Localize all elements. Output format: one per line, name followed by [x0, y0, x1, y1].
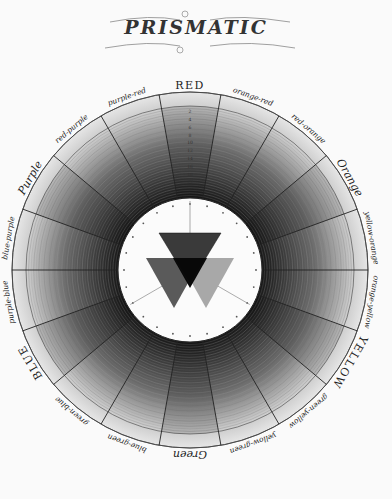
center-dial [118, 198, 262, 342]
scale-number: 10 [187, 140, 193, 145]
scale-number: 20 [187, 179, 193, 184]
scale-number: 8 [189, 133, 192, 138]
scale-number: 2 [189, 109, 192, 114]
scale-number: 14 [187, 156, 193, 161]
segment-label-green: Green [173, 448, 207, 461]
scale-number: 4 [189, 117, 192, 122]
scale-number: 6 [189, 125, 192, 130]
color-wheel: REDorange-redred-orangeOrangeyellow-oran… [0, 0, 392, 499]
segment-label-red: RED [175, 79, 205, 92]
scale-number: 18 [187, 172, 193, 177]
scale-number: 12 [187, 148, 193, 153]
scale-number: 16 [187, 164, 193, 169]
